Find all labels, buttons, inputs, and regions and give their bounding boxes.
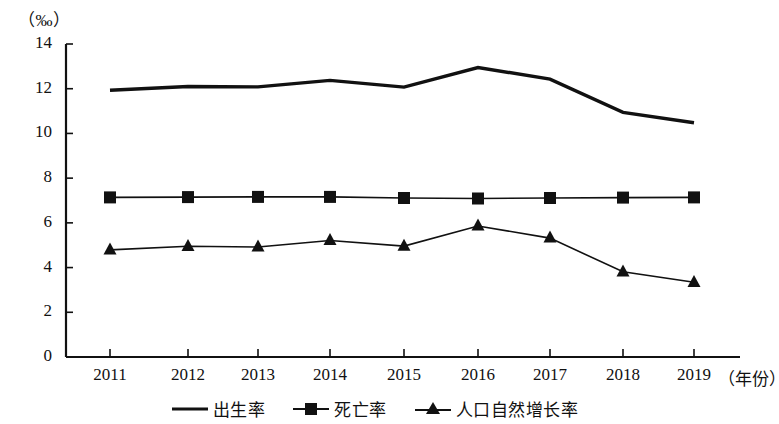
data-point-square-marker [398, 192, 410, 204]
legend-item-natural-growth-rate: 人口自然增长率 [413, 396, 579, 421]
y-tick-label: 8 [18, 167, 52, 187]
data-point-triangle-marker [324, 233, 337, 245]
x-tick-label: 2011 [78, 365, 142, 385]
legend-item-death-rate: 死亡率 [291, 396, 387, 421]
data-point-square-marker [544, 192, 556, 204]
x-tick-label: 2015 [372, 365, 436, 385]
x-tick-label: 2012 [156, 365, 220, 385]
data-point-square-marker [104, 191, 116, 203]
data-point-triangle-marker [252, 240, 265, 252]
y-tick-label: 2 [18, 301, 52, 321]
x-tick-label: 2018 [591, 365, 655, 385]
legend-item-birth-rate: 出生率 [170, 396, 266, 421]
data-point-triangle-marker [472, 219, 485, 231]
data-point-square-marker [324, 191, 336, 203]
x-axis-title: （年份） [718, 365, 779, 390]
legend-label-death-rate: 死亡率 [334, 396, 387, 421]
legend-square-swatch-icon [291, 401, 331, 417]
legend-line-swatch-icon [170, 401, 210, 417]
y-tick-label: 14 [18, 33, 52, 53]
data-point-square-marker [617, 192, 629, 204]
data-point-triangle-marker [104, 243, 117, 255]
y-tick-label: 6 [18, 212, 52, 232]
x-tick-label: 2013 [226, 365, 290, 385]
data-point-square-marker [472, 193, 484, 205]
data-series-group [104, 68, 701, 287]
y-tick-label: 0 [18, 346, 52, 366]
data-point-triangle-marker [182, 239, 195, 251]
y-tick-label: 12 [18, 78, 52, 98]
series-line-2 [110, 226, 694, 282]
legend-triangle-swatch-icon [413, 401, 453, 417]
x-tick-label: 2016 [446, 365, 510, 385]
y-tick-label: 4 [18, 257, 52, 277]
data-point-square-marker [252, 191, 264, 203]
legend-label-birth-rate: 出生率 [213, 396, 266, 421]
chart-legend: 出生率 死亡率 人口自然增长率 [0, 396, 748, 421]
x-tick-label: 2017 [518, 365, 582, 385]
data-point-square-marker [182, 191, 194, 203]
data-point-square-marker [688, 191, 700, 203]
x-tick-label: 2014 [298, 365, 362, 385]
y-tick-label: 10 [18, 122, 52, 142]
x-tick-label: 2019 [662, 365, 726, 385]
legend-label-natural-growth-rate: 人口自然增长率 [456, 396, 579, 421]
series-line-0 [110, 68, 694, 123]
